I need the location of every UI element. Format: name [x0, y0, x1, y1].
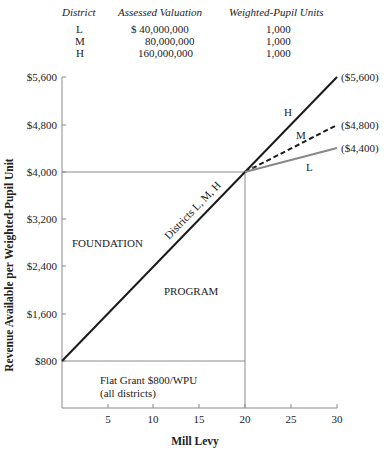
y-tick-label: $1,600: [27, 308, 58, 320]
y-tick-label: $4,000: [27, 166, 58, 178]
flat-grant-sublabel: (all districts): [100, 387, 156, 400]
m-label: M: [296, 129, 306, 141]
x-tick-label: 20: [240, 413, 252, 425]
program-label: PROGRAM: [164, 285, 219, 297]
district-m-line: [245, 125, 337, 172]
districts-line-label: Districts L, M, H: [162, 179, 223, 242]
h-end-label: ($5,600): [341, 71, 379, 84]
district-l-line: [245, 148, 337, 172]
h-label: H: [284, 106, 292, 118]
m-end-label: ($4,800): [341, 119, 379, 132]
x-tick-label: 10: [148, 413, 160, 425]
district-h-line: [245, 77, 337, 172]
flat-grant-label: Flat Grant $800/WPU: [100, 374, 197, 386]
y-tick-label: $2,400: [27, 260, 58, 272]
foundation-label: FOUNDATION: [72, 237, 143, 249]
x-tick-label: 15: [194, 413, 206, 425]
x-axis-title: Mill Levy: [171, 435, 219, 448]
districts-lmh-line: [62, 172, 245, 361]
y-tick-label: $5,600: [27, 71, 58, 83]
y-tick-label: $800: [35, 355, 58, 367]
y-tick-label: $4,800: [27, 119, 58, 131]
l-end-label: ($4,400): [341, 142, 379, 155]
x-tick-label: 5: [105, 413, 111, 425]
y-tick-label: $3,200: [27, 213, 58, 225]
l-label: L: [306, 161, 313, 173]
y-axis-title: Revenue Available per Weighted-Pupil Uni…: [3, 158, 16, 372]
chart: $800 $1,600 $2,400 $3,200 $4,000 $4,800 …: [0, 0, 384, 452]
x-tick-label: 25: [286, 413, 298, 425]
x-tick-label: 30: [332, 413, 344, 425]
